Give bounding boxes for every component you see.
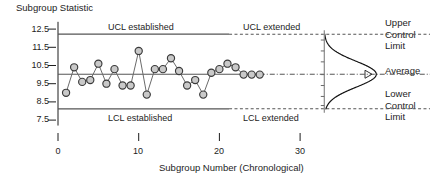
- data-point-22[interactable]: [232, 64, 239, 71]
- data-point-18[interactable]: [200, 91, 207, 98]
- data-point-16[interactable]: [184, 82, 191, 89]
- data-point-19[interactable]: [208, 69, 215, 76]
- data-point-3[interactable]: [79, 78, 86, 85]
- data-point-10[interactable]: [135, 47, 142, 54]
- data-point-7[interactable]: [111, 66, 118, 73]
- data-point-8[interactable]: [119, 82, 126, 89]
- data-point-23[interactable]: [240, 71, 247, 78]
- data-point-1[interactable]: [62, 89, 69, 96]
- data-point-24[interactable]: [248, 71, 255, 78]
- data-point-2[interactable]: [71, 64, 78, 71]
- data-point-17[interactable]: [192, 76, 199, 83]
- data-point-5[interactable]: [95, 60, 102, 67]
- data-point-25[interactable]: [256, 71, 263, 78]
- data-point-6[interactable]: [103, 80, 110, 87]
- normal-distribution-curve: [325, 34, 377, 109]
- data-point-13[interactable]: [159, 66, 166, 73]
- data-point-11[interactable]: [143, 91, 150, 98]
- control-chart: Subgroup Statistic 12.5 11.5 10.5 9.5 8.…: [0, 0, 437, 181]
- data-point-4[interactable]: [87, 76, 94, 83]
- plot-area: [0, 0, 437, 181]
- data-point-15[interactable]: [175, 67, 182, 74]
- data-point-12[interactable]: [151, 66, 158, 73]
- data-point-9[interactable]: [127, 82, 134, 89]
- data-point-20[interactable]: [216, 66, 223, 73]
- data-point-14[interactable]: [167, 55, 174, 62]
- data-point-21[interactable]: [224, 60, 231, 67]
